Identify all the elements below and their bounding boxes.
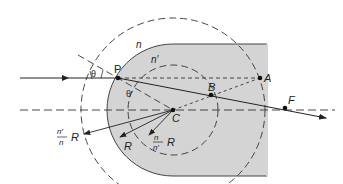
point-F (283, 106, 288, 111)
label-inner-R: R (167, 136, 175, 148)
point-P (116, 76, 121, 81)
label-F: F (288, 94, 296, 106)
label-P: P (114, 63, 121, 75)
label-theta: θ (91, 69, 96, 79)
label-A: A (263, 72, 271, 84)
point-A (258, 76, 263, 81)
label-B: B (208, 81, 215, 93)
label-C: C (172, 112, 180, 124)
optics-diagram: P A B C F n n′ θ θ′ n′ n R R n n′ R (0, 0, 343, 184)
label-theta-prime: θ′ (126, 89, 133, 99)
label-R: R (124, 140, 132, 152)
label-outer-R: R (71, 131, 79, 143)
label-outer-frac-num: n′ (57, 127, 63, 136)
label-inner-frac-num: n (154, 133, 159, 142)
label-inner-frac-den: n′ (153, 143, 159, 152)
label-n: n (136, 39, 142, 50)
label-outer-frac-den: n (59, 138, 64, 147)
point-B (209, 93, 214, 98)
label-n-prime: n′ (151, 54, 160, 65)
